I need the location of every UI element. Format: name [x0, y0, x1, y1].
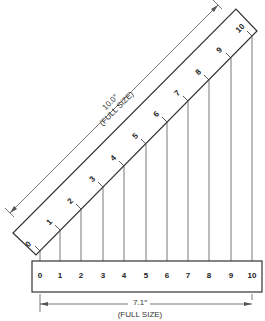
- horizontal-dimension-value: 7.1″: [133, 298, 147, 307]
- horizontal-label-6: 6: [165, 271, 170, 280]
- horizontal-label-2: 2: [79, 271, 84, 280]
- horizontal-label-5: 5: [144, 271, 149, 280]
- horizontal-dimension-note: (FULL SIZE): [118, 310, 163, 319]
- horizontal-label-8: 8: [207, 271, 212, 280]
- horizontal-label-10: 10: [248, 271, 257, 280]
- horizontal-label-3: 3: [101, 271, 106, 280]
- inclined-scale-bar: [13, 9, 257, 255]
- horizontal-label-0: 0: [38, 271, 43, 280]
- horizontal-label-9: 9: [229, 271, 234, 280]
- horizontal-label-4: 4: [122, 271, 127, 280]
- scale-projection-diagram: 0 1 2 3 4 5 6 7 8 9 10 10.0″ (FULL SIZE)…: [0, 0, 265, 321]
- horizontal-label-7: 7: [186, 271, 191, 280]
- projection-lines: [40, 36, 252, 261]
- horizontal-label-1: 1: [58, 271, 63, 280]
